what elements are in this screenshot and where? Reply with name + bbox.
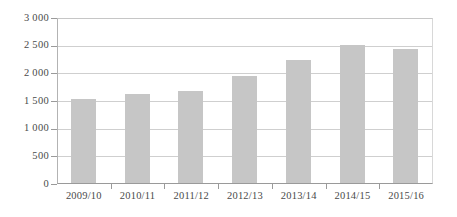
y-axis-tick-label: 2 000 <box>24 68 49 79</box>
x-axis-label-group: 2009/10 2010/11 2011/12 2012/13 2013/14 … <box>57 190 433 210</box>
x-axis-tick-label: 2010/11 <box>111 190 165 202</box>
bar-2014-15[interactable] <box>340 45 365 184</box>
y-axis-label-group: 3 000 2 500 2 000 1 500 1 000 500 0 <box>0 0 49 217</box>
x-tick-mark <box>272 184 273 189</box>
bar-chart: 3 000 2 500 2 000 1 500 1 000 500 0 <box>0 0 457 217</box>
x-axis-tick-label: 2015/16 <box>379 190 433 202</box>
x-axis-tick-label: 2009/10 <box>57 190 111 202</box>
x-axis-tick-label: 2012/13 <box>218 190 272 202</box>
bar-2012-13[interactable] <box>232 76 257 184</box>
bars-layer <box>57 18 433 184</box>
x-tick-mark <box>218 184 219 189</box>
y-axis-tick-label: 500 <box>32 151 49 162</box>
bar-2009-10[interactable] <box>71 99 96 184</box>
y-axis-tick-label: 3 000 <box>24 13 49 24</box>
bar-2015-16[interactable] <box>393 49 418 184</box>
y-tick-mark <box>51 184 57 185</box>
y-axis-tick-label: 2 500 <box>24 40 49 51</box>
y-axis-tick-label: 0 <box>43 179 49 190</box>
x-tick-mark <box>379 184 380 189</box>
y-axis-tick-label: 1 000 <box>24 123 49 134</box>
x-axis-tick-label: 2014/15 <box>326 190 380 202</box>
bar-2010-11[interactable] <box>125 94 150 184</box>
bar-2013-14[interactable] <box>286 60 311 184</box>
plot-area <box>57 18 433 184</box>
y-axis-tick-label: 1 500 <box>24 96 49 107</box>
x-axis-tick-label: 2013/14 <box>272 190 326 202</box>
bar-2011-12[interactable] <box>178 91 203 184</box>
x-tick-mark <box>326 184 327 189</box>
x-axis-tick-label: 2011/12 <box>164 190 218 202</box>
x-tick-mark <box>164 184 165 189</box>
x-tick-mark <box>111 184 112 189</box>
